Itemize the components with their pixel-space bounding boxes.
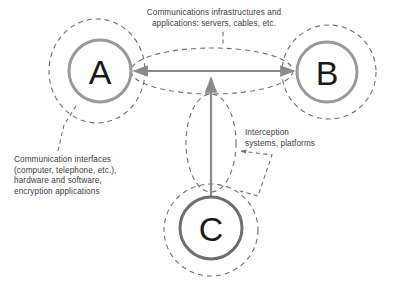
diagram-graphics: A B C bbox=[0, 0, 398, 300]
label-interception-systems: Interception systems, platforms bbox=[245, 128, 365, 149]
leader-line-interception bbox=[240, 151, 272, 196]
node-a-label: A bbox=[89, 53, 112, 91]
diagram-canvas: A B C Communications infrastructures and… bbox=[0, 0, 398, 300]
label-communications-infrastructures: Communications infrastructures and appli… bbox=[136, 8, 292, 29]
node-b-label: B bbox=[316, 54, 339, 92]
leader-line-interfaces bbox=[58, 106, 76, 151]
node-c-label: C bbox=[199, 210, 224, 248]
label-communication-interfaces: Communication interfaces (computer, tele… bbox=[14, 155, 164, 197]
